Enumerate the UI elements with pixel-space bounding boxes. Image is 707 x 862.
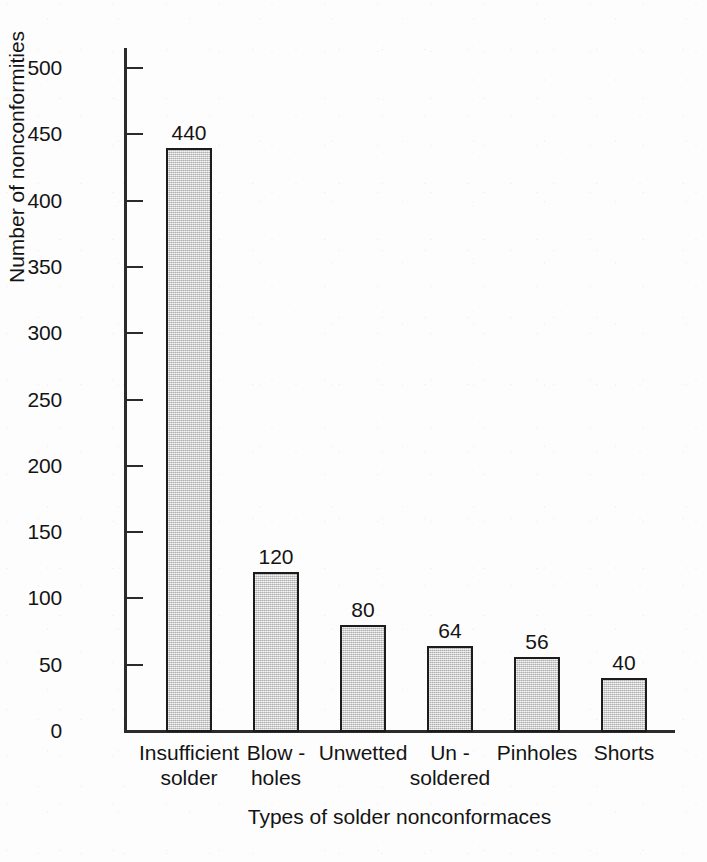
bar-value-label: 40	[571, 652, 677, 673]
y-axis-tick	[126, 399, 143, 401]
y-axis-tick-label: 200	[28, 455, 62, 476]
bar	[514, 657, 560, 732]
y-axis-tick	[126, 67, 143, 69]
bar-value-label: 440	[136, 122, 242, 143]
bar	[601, 678, 647, 732]
y-axis-title: Number of nonconformities	[6, 0, 27, 283]
y-axis-line	[124, 48, 127, 733]
y-axis-tick-label: 300	[28, 322, 62, 343]
bar	[427, 646, 473, 732]
bar	[253, 572, 299, 732]
y-axis-tick	[126, 465, 143, 467]
y-axis-tick	[126, 266, 143, 268]
bar-value-label: 80	[310, 599, 416, 620]
y-axis-tick-label: 450	[28, 123, 62, 144]
bar-value-label: 56	[484, 631, 590, 652]
y-axis-tick-label: 0	[51, 720, 62, 741]
y-axis-tick	[126, 664, 143, 666]
y-axis-tick-label: 400	[28, 190, 62, 211]
bar-chart-figure: 050100150200250300350400450500 440120806…	[0, 0, 707, 862]
y-axis-tick	[126, 730, 143, 732]
y-axis-tick	[126, 332, 143, 334]
y-axis-tick-label: 100	[28, 587, 62, 608]
bar-value-label: 120	[223, 546, 329, 567]
y-axis-tick	[126, 200, 143, 202]
x-axis-title: Types of solder nonconformaces	[124, 806, 675, 827]
y-axis-tick-label: 150	[28, 521, 62, 542]
bar	[166, 148, 212, 732]
x-axis-category-label: Shorts	[564, 740, 684, 765]
y-axis-tick-label: 250	[28, 389, 62, 410]
y-axis-tick	[126, 597, 143, 599]
y-axis-tick-label: 50	[39, 654, 62, 675]
plot-area: 050100150200250300350400450500 440120806…	[0, 0, 707, 862]
y-axis-tick-label: 500	[28, 57, 62, 78]
bar	[340, 625, 386, 732]
y-axis-tick	[126, 531, 143, 533]
y-axis-tick-label: 350	[28, 256, 62, 277]
